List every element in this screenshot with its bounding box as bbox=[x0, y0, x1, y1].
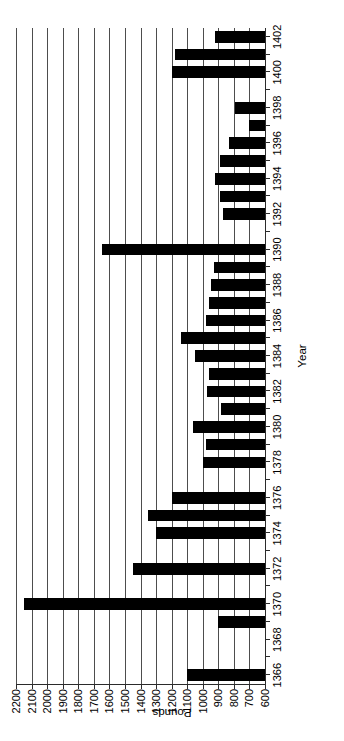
bar bbox=[249, 120, 265, 132]
value-axis-tick-label: 1800 bbox=[73, 689, 84, 713]
value-axis-tick-label: 600 bbox=[260, 689, 271, 707]
gridline bbox=[141, 28, 142, 684]
category-axis-tick-label: 1368 bbox=[272, 627, 283, 651]
value-axis-tick-label: 1500 bbox=[119, 689, 130, 713]
category-axis-tick bbox=[265, 213, 270, 214]
value-axis-tick-label: 1900 bbox=[57, 689, 68, 713]
bar bbox=[195, 350, 265, 362]
bar bbox=[156, 527, 265, 539]
category-axis-tick bbox=[265, 390, 270, 391]
category-axis-tick bbox=[265, 461, 270, 462]
bar bbox=[175, 49, 265, 61]
bar bbox=[229, 137, 265, 149]
value-axis-tick-label: 1000 bbox=[197, 689, 208, 713]
bar bbox=[24, 598, 265, 610]
rotated-chart-container: Pounds Year 2200210020001900180017001600… bbox=[0, 0, 344, 741]
category-axis-tick bbox=[265, 195, 270, 196]
plot-area: 2200210020001900180017001600150014001300… bbox=[16, 28, 265, 684]
value-axis-tick-label: 1700 bbox=[88, 689, 99, 713]
category-axis-tick-label: 1388 bbox=[272, 273, 283, 297]
gridline bbox=[47, 28, 48, 684]
gridline bbox=[125, 28, 126, 684]
category-axis-tick bbox=[265, 479, 270, 480]
bar bbox=[214, 262, 265, 274]
category-axis-tick bbox=[265, 603, 270, 604]
category-axis-tick-label: 1366 bbox=[272, 663, 283, 687]
bar bbox=[223, 208, 265, 220]
bar bbox=[133, 563, 265, 575]
category-axis-tick-label: 1370 bbox=[272, 592, 283, 616]
gridline bbox=[63, 28, 64, 684]
category-axis-tick bbox=[265, 586, 270, 587]
gridline bbox=[16, 28, 17, 684]
plot-wrapper: Pounds Year 2200210020001900180017001600… bbox=[0, 0, 344, 741]
category-axis-tick bbox=[265, 497, 270, 498]
category-axis-tick bbox=[265, 302, 270, 303]
category-axis-tick bbox=[265, 266, 270, 267]
category-axis-tick bbox=[265, 674, 270, 675]
chart-canvas: Pounds Year 2200210020001900180017001600… bbox=[0, 0, 344, 741]
category-axis-tick bbox=[265, 178, 270, 179]
category-axis-tick bbox=[265, 107, 270, 108]
bar bbox=[187, 669, 265, 681]
category-axis-tick-label: 1398 bbox=[272, 96, 283, 120]
value-axis-tick-label: 1400 bbox=[135, 689, 146, 713]
category-axis-title: Year bbox=[296, 28, 308, 684]
category-axis-tick bbox=[265, 89, 270, 90]
category-axis-tick bbox=[265, 621, 270, 622]
category-axis-tick bbox=[265, 639, 270, 640]
value-axis-tick-label: 2000 bbox=[42, 689, 53, 713]
category-axis-tick bbox=[265, 515, 270, 516]
category-axis-tick-label: 1394 bbox=[272, 166, 283, 190]
category-axis-tick bbox=[265, 444, 270, 445]
value-axis-tick-label: 2100 bbox=[26, 689, 37, 713]
bar bbox=[215, 31, 265, 43]
bar bbox=[211, 279, 265, 291]
category-axis-tick bbox=[265, 54, 270, 55]
category-axis-tick bbox=[265, 656, 270, 657]
gridline bbox=[94, 28, 95, 684]
gridline bbox=[109, 28, 110, 684]
bar bbox=[148, 510, 265, 522]
category-axis-tick-label: 1376 bbox=[272, 486, 283, 510]
bar bbox=[206, 439, 265, 451]
category-axis-tick bbox=[265, 532, 270, 533]
category-axis-tick-label: 1400 bbox=[272, 60, 283, 84]
category-axis-tick bbox=[265, 408, 270, 409]
bar bbox=[207, 386, 265, 398]
bar bbox=[102, 244, 265, 256]
category-axis-tick bbox=[265, 125, 270, 126]
bar bbox=[209, 368, 265, 380]
category-axis-tick bbox=[265, 337, 270, 338]
category-axis-tick bbox=[265, 284, 270, 285]
category-axis-tick-label: 1372 bbox=[272, 557, 283, 581]
bar bbox=[218, 616, 265, 628]
category-axis-tick bbox=[265, 320, 270, 321]
category-axis-tick-label: 1380 bbox=[272, 415, 283, 439]
value-axis-tick-label: 1600 bbox=[104, 689, 115, 713]
category-axis-tick-label: 1374 bbox=[272, 521, 283, 545]
category-axis-tick-label: 1386 bbox=[272, 308, 283, 332]
gridline bbox=[32, 28, 33, 684]
category-axis-tick-label: 1392 bbox=[272, 202, 283, 226]
gridline bbox=[156, 28, 157, 684]
gridline bbox=[78, 28, 79, 684]
category-axis-tick-label: 1390 bbox=[272, 237, 283, 261]
category-axis-tick bbox=[265, 160, 270, 161]
bar bbox=[193, 421, 265, 433]
category-axis-tick bbox=[265, 550, 270, 551]
category-axis-tick-label: 1396 bbox=[272, 131, 283, 155]
value-axis-tick-label: 1100 bbox=[182, 689, 193, 713]
category-axis-tick bbox=[265, 426, 270, 427]
value-axis-tick-label: 1300 bbox=[151, 689, 162, 713]
gridline bbox=[172, 28, 173, 684]
bar bbox=[172, 67, 265, 79]
bar bbox=[220, 191, 265, 203]
bar bbox=[215, 173, 265, 185]
category-axis-tick bbox=[265, 71, 270, 72]
category-axis-tick bbox=[265, 142, 270, 143]
category-axis-tick-label: 1384 bbox=[272, 344, 283, 368]
bar bbox=[209, 297, 265, 309]
category-axis-tick-label: 1382 bbox=[272, 379, 283, 403]
category-axis-tick bbox=[265, 373, 270, 374]
